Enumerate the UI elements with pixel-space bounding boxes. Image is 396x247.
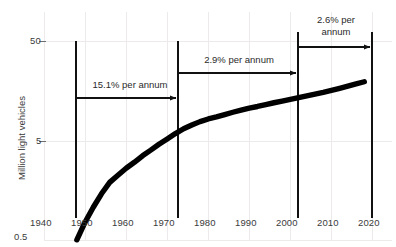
x-tick-label-1940: 1940 bbox=[30, 217, 52, 228]
cagr-label-1972-2000: 2.9% per annum bbox=[189, 54, 289, 66]
data-series-layer bbox=[0, 0, 396, 247]
cagr-label-2000-2019-line2: annum bbox=[303, 26, 369, 38]
x-tick-label-1980: 1980 bbox=[194, 217, 216, 228]
y-tick-label-0-5: 0.5 bbox=[14, 231, 28, 242]
x-tick-label-1960: 1960 bbox=[112, 217, 134, 228]
cagr-label-2000-2019: 2.6% per annum bbox=[303, 14, 369, 37]
x-tick-label-1950: 1950 bbox=[71, 217, 93, 228]
chart-figure: 50 5 0.5 Million light vehicles 1940 195… bbox=[0, 0, 396, 247]
x-tick-label-1970: 1970 bbox=[153, 217, 175, 228]
x-tick-label-2020: 2020 bbox=[358, 217, 380, 228]
cagr-label-1948-1972: 15.1% per annum bbox=[83, 79, 177, 91]
cagr-label-2000-2019-line1: 2.6% per bbox=[303, 14, 369, 26]
y-axis-title: Million light vehicles bbox=[16, 96, 27, 180]
x-tick-label-1990: 1990 bbox=[235, 217, 257, 228]
x-tick-label-2010: 2010 bbox=[317, 217, 339, 228]
y-tick-label-5: 5 bbox=[36, 135, 41, 146]
x-tick-label-2000: 2000 bbox=[276, 217, 298, 228]
y-tick-label-50: 50 bbox=[30, 35, 41, 46]
